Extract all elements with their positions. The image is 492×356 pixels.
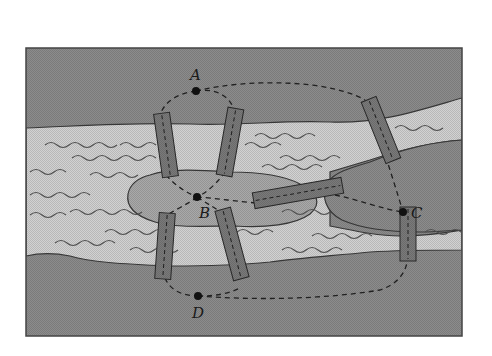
halftone-texture xyxy=(26,48,462,336)
point-c-label: C xyxy=(411,204,423,222)
point-d-label: D xyxy=(191,304,204,322)
konigsberg-bridges-diagram: A B C D xyxy=(0,0,492,356)
point-a-dot xyxy=(192,87,200,95)
point-a-label: A xyxy=(188,66,201,84)
point-b-label: B xyxy=(198,204,210,222)
point-c-dot xyxy=(399,208,407,216)
point-d-dot xyxy=(194,292,202,300)
point-b-dot xyxy=(193,193,201,201)
